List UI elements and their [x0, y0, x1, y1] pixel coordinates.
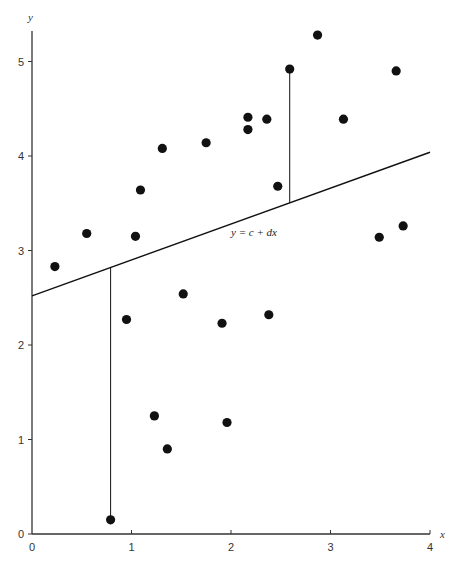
y-axis-label: y — [27, 11, 33, 23]
data-point — [399, 221, 408, 230]
x-tick-label: 0 — [29, 541, 35, 553]
data-point — [179, 289, 188, 298]
data-point — [106, 515, 115, 524]
x-tick-label: 2 — [228, 541, 234, 553]
y-tick-label: 2 — [18, 339, 24, 351]
data-point — [262, 115, 271, 124]
data-point — [122, 315, 131, 324]
data-point — [264, 310, 273, 319]
data-point — [217, 319, 226, 328]
data-point — [273, 182, 282, 191]
data-point — [313, 30, 322, 39]
y-tick-label: 3 — [18, 245, 24, 257]
regression-line — [32, 152, 430, 296]
equation-label: y = c + dx — [230, 226, 277, 238]
residual-lines — [111, 69, 290, 520]
x-axis-label: x — [439, 528, 445, 540]
axes: 01234012345xy — [18, 11, 445, 553]
scatter-chart: 01234012345xy y = c + dx — [0, 0, 453, 562]
data-points — [50, 30, 407, 524]
data-point — [202, 138, 211, 147]
data-point — [285, 64, 294, 73]
data-point — [50, 262, 59, 271]
data-point — [131, 232, 140, 241]
data-point — [243, 125, 252, 134]
y-tick-label: 4 — [18, 150, 24, 162]
data-point — [339, 115, 348, 124]
data-point — [243, 113, 252, 122]
x-tick-label: 4 — [427, 541, 433, 553]
data-point — [392, 66, 401, 75]
data-point — [150, 411, 159, 420]
y-tick-label: 1 — [18, 434, 24, 446]
data-point — [222, 418, 231, 427]
x-tick-label: 1 — [128, 541, 134, 553]
data-point — [136, 185, 145, 194]
data-point — [163, 444, 172, 453]
data-point — [82, 229, 91, 238]
data-point — [375, 233, 384, 242]
y-tick-label: 0 — [18, 528, 24, 540]
data-point — [158, 144, 167, 153]
y-tick-label: 5 — [18, 56, 24, 68]
x-tick-label: 3 — [327, 541, 333, 553]
